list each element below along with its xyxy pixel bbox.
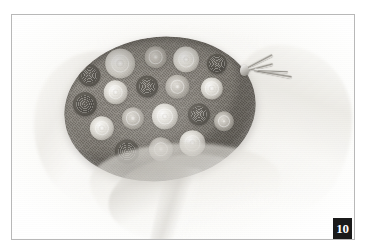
metal-clip xyxy=(238,49,294,93)
clip-knob xyxy=(240,65,249,76)
bowl-rim xyxy=(56,26,264,192)
page-canvas: 10 xyxy=(0,0,366,247)
bowl-inner-shadow xyxy=(56,26,264,192)
woven-bowl xyxy=(56,26,264,192)
photograph xyxy=(12,15,354,239)
figure-number-badge: 10 xyxy=(333,218,352,239)
figure-plate-frame: 10 xyxy=(11,14,355,240)
